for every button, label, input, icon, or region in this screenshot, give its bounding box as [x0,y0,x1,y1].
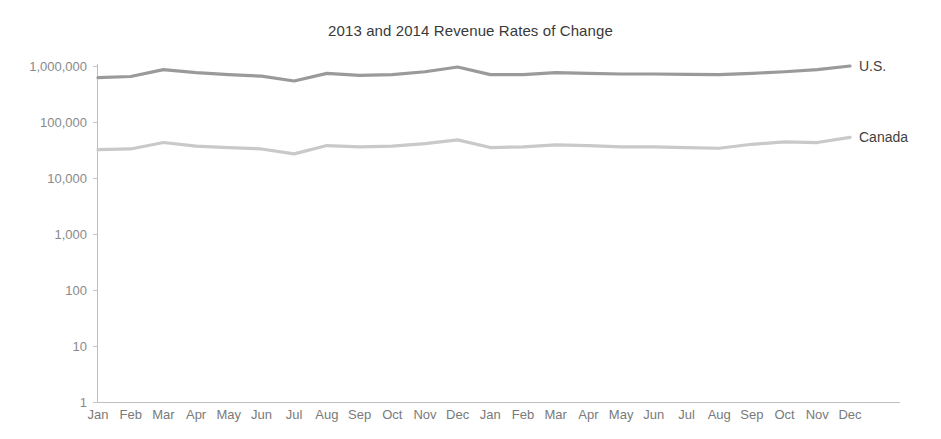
series-label-us: U.S. [859,58,886,74]
y-tick-label: 100,000 [40,115,87,130]
x-tick-label: Dec [446,407,470,422]
data-series-group [98,66,850,154]
x-tick-label: Jun [251,407,272,422]
x-tick-label: Feb [119,407,141,422]
series-direct-labels: U.S.Canada [859,58,908,145]
series-label-canada: Canada [859,129,908,145]
x-tick-label: May [609,407,634,422]
x-tick-label: Mar [152,407,175,422]
x-tick-label: Jul [286,407,303,422]
series-line-canada [98,137,850,153]
x-tick-labels: JanFebMarAprMayJunJulAugSepOctNovDecJanF… [88,407,863,422]
x-tick-label: Jan [480,407,501,422]
x-tick-label: Nov [413,407,437,422]
x-tick-label: Sep [348,407,371,422]
y-tick-label: 1 [80,395,87,410]
x-tick-label: Jul [678,407,695,422]
chart-plot-area: 1,000,000100,00010,0001,000100101 JanFeb… [0,0,941,439]
x-tick-label: Jan [88,407,109,422]
x-tick-label: Nov [806,407,830,422]
x-tick-label: Dec [838,407,862,422]
y-tick-label: 1,000 [54,227,87,242]
x-tick-label: Sep [740,407,763,422]
chart-container: 2013 and 2014 Revenue Rates of Change 1,… [0,0,941,439]
x-tick-label: Aug [708,407,731,422]
x-tick-label: Jun [643,407,664,422]
x-tick-label: Mar [545,407,568,422]
y-tick-label: 10,000 [47,171,87,186]
y-tick-label: 100 [65,283,87,298]
x-tick-label: Apr [186,407,207,422]
x-tick-label: Feb [512,407,534,422]
y-tick-label: 10 [73,339,87,354]
x-tick-label: Oct [382,407,403,422]
y-tick-labels: 1,000,000100,00010,0001,000100101 [29,59,87,410]
series-line-us [98,66,850,81]
y-tick-label: 1,000,000 [29,59,87,74]
x-tick-label: Aug [315,407,338,422]
x-tick-label: Oct [774,407,795,422]
x-tick-label: May [217,407,242,422]
x-tick-label: Apr [578,407,599,422]
